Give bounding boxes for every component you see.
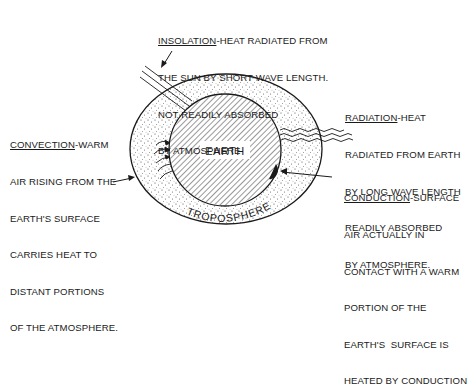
convection-label: CONVECTION-WARM AIR RISING FROM THE EART… [10, 115, 118, 347]
conduction-line: EARTH'S SURFACE IS [344, 339, 467, 351]
conduction-line: CONTACT WITH A WARM [344, 266, 467, 278]
convection-line: -WARM [75, 139, 109, 150]
conduction-line: HEATED BY CONDUCTION [344, 375, 467, 387]
radiation-term: RADIATION [345, 112, 397, 123]
radiation-line: -HEAT [397, 112, 426, 123]
convection-line: OF THE ATMOSPHERE. [10, 322, 118, 334]
insolation-line: -HEAT RADIATED FROM [216, 35, 327, 46]
radiation-line: RADIATED FROM EARTH [345, 149, 461, 161]
convection-line: EARTH'S SURFACE [10, 213, 118, 225]
conduction-label: CONDUCTION-SURFACE AIR ACTUALLY IN CONTA… [344, 168, 467, 388]
insolation-line: NOT READILY ABSORBED [158, 109, 328, 121]
convection-term: CONVECTION [10, 139, 75, 150]
insolation-term: INSOLATION [158, 35, 216, 46]
insolation-line: THE SUN BY SHORT WAVE LENGTH. [158, 72, 328, 84]
conduction-line: PORTION OF THE [344, 302, 467, 314]
conduction-term: CONDUCTION [344, 192, 410, 203]
conduction-line: AIR ACTUALLY IN [344, 229, 467, 241]
conduction-line: -SURFACE [410, 192, 459, 203]
insolation-line: BY ATMOSPHERE [158, 145, 328, 157]
insolation-label: INSOLATION-HEAT RADIATED FROM THE SUN BY… [158, 11, 328, 170]
convection-line: AIR RISING FROM THE [10, 176, 118, 188]
convection-line: CARRIES HEAT TO [10, 249, 118, 261]
convection-line: DISTANT PORTIONS [10, 286, 118, 298]
